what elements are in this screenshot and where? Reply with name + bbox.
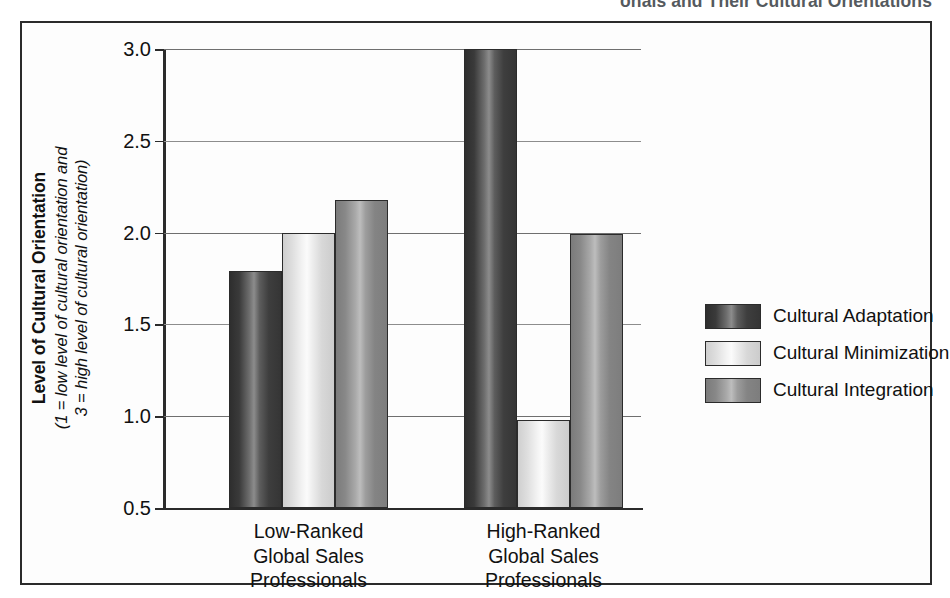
bar-cultural-integration-low-ranked <box>335 200 388 508</box>
legend-label: Cultural Adaptation <box>773 305 934 327</box>
y-axis-title-main: Level of Cultural Orientation <box>29 147 50 429</box>
legend-swatch <box>705 378 761 403</box>
plot-area: 0.51.01.52.02.53.0 Low-Ranked Global Sal… <box>163 49 643 510</box>
legend-item-cultural-integration[interactable]: Cultural Integration <box>705 373 950 407</box>
legend-swatch <box>705 341 761 366</box>
y-axis-title-sub-line2: 3 = high level of cultural orientation) <box>71 147 91 429</box>
legend-item-cultural-adaptation[interactable]: Cultural Adaptation <box>705 299 950 333</box>
legend: Cultural AdaptationCultural Minimization… <box>705 299 950 410</box>
legend-label: Cultural Minimization <box>773 342 949 364</box>
bar-cultural-adaptation-low-ranked <box>229 271 282 508</box>
x-axis-category-label: Low-Ranked Global Sales Professionals <box>207 519 410 593</box>
y-axis-tick-mark <box>155 49 164 51</box>
gridline <box>163 49 641 50</box>
y-axis-title-sub-line1: (1 = low level of cultural orientation a… <box>51 147 71 429</box>
chart-frame: Level of Cultural Orientation (1 = low l… <box>20 21 932 585</box>
y-axis-tick-mark <box>155 508 164 510</box>
legend-swatch <box>705 304 761 329</box>
gridline <box>163 141 641 142</box>
y-axis-tick-label: 1.0 <box>123 405 151 428</box>
y-axis-tick-mark <box>155 324 164 326</box>
x-axis-category-label: High-Ranked Global Sales Professionals <box>442 519 645 593</box>
y-axis-line <box>163 49 166 508</box>
bar-cultural-minimization-high-ranked <box>517 420 570 508</box>
legend-item-cultural-minimization[interactable]: Cultural Minimization <box>705 336 950 370</box>
figure-caption: onals and Their Cultural Orientations <box>0 0 950 11</box>
bar-cultural-integration-high-ranked <box>570 234 623 508</box>
y-axis-tick-label: 2.0 <box>123 221 151 244</box>
y-axis-title: Level of Cultural Orientation (1 = low l… <box>23 58 97 518</box>
y-axis-tick-mark <box>155 141 164 143</box>
y-axis-tick-mark <box>155 416 164 418</box>
y-axis-tick-label: 3.0 <box>123 38 151 61</box>
y-axis-tick-mark <box>155 233 164 235</box>
legend-label: Cultural Integration <box>773 379 934 401</box>
y-axis-tick-label: 1.5 <box>123 313 151 336</box>
bar-cultural-minimization-low-ranked <box>282 233 335 508</box>
bar-cultural-adaptation-high-ranked <box>464 49 517 508</box>
y-axis-tick-label: 2.5 <box>123 129 151 152</box>
gridline <box>163 233 641 234</box>
y-axis-tick-label: 0.5 <box>123 497 151 520</box>
